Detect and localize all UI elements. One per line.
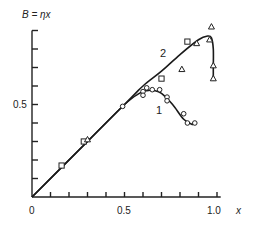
y-axis-label: B = ηx <box>22 9 52 20</box>
chart: B = ηx 0 0.5 1.0 x 0.5 1 2 <box>0 0 254 225</box>
x-tick-label-0.5: 0.5 <box>117 205 131 216</box>
curve-2-label: 2 <box>160 47 166 59</box>
circle-marker <box>120 104 125 109</box>
circle-marker <box>181 111 186 116</box>
triangle-marker <box>210 75 216 80</box>
curve-2 <box>32 36 213 197</box>
triangle-marker <box>179 66 185 71</box>
curve-1 <box>32 90 193 197</box>
x-axis-origin-label: 0 <box>29 205 35 216</box>
x-tick-label-1.0: 1.0 <box>207 205 221 216</box>
curve-1-label: 1 <box>156 104 162 116</box>
circle-marker <box>150 87 155 92</box>
circle-marker <box>165 99 170 104</box>
square-marker <box>59 163 64 168</box>
x-axis-label: x <box>235 205 242 216</box>
y-tick-label-0.5: 0.5 <box>13 99 27 110</box>
triangle-marker <box>210 62 216 67</box>
square-marker <box>159 76 164 81</box>
circle-marker <box>157 87 162 92</box>
axes <box>32 31 221 198</box>
circle-marker <box>144 86 149 91</box>
triangle-marker <box>208 24 214 29</box>
circle-marker <box>193 121 198 126</box>
circle-marker <box>185 121 190 126</box>
square-marker <box>185 39 190 44</box>
circle-marker <box>141 93 146 98</box>
curves <box>32 36 213 197</box>
